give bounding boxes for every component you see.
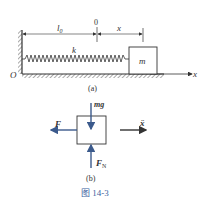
figure-caption: 图 14-3 — [81, 188, 109, 198]
displacement-label: x — [116, 23, 121, 33]
panel-b-sublabel: (b) — [86, 174, 96, 183]
gravity-label: mg — [94, 100, 104, 109]
spring — [22, 55, 129, 62]
wall — [18, 30, 22, 74]
zero-mark-label: 0 — [94, 18, 98, 27]
panel-a-sublabel: (a) — [88, 84, 97, 93]
panel-a: x O k m l0 0 x (a) — [10, 18, 197, 93]
acceleration-label: ẍ — [139, 118, 145, 128]
normal-force-label: FN — [95, 158, 107, 169]
spring-constant-label: k — [72, 45, 77, 55]
ground — [22, 74, 164, 78]
natural-length-label: l0 — [57, 23, 63, 34]
axis-label: x — [192, 69, 197, 79]
origin-label: O — [10, 70, 17, 80]
figure-14-3: x O k m l0 0 x (a) mg F FN ẍ (b) 图 14-3 — [0, 0, 209, 210]
mass-label: m — [139, 56, 146, 66]
spring-force-label: F — [54, 119, 61, 129]
panel-b: mg F FN ẍ (b) — [51, 100, 146, 183]
